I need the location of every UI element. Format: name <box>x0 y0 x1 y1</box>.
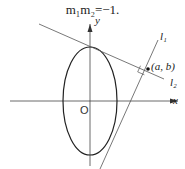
origin-label: O <box>80 104 89 116</box>
line-l2 <box>39 24 164 79</box>
line2-label: l₂ <box>170 76 177 88</box>
point-label: (a, b) <box>151 60 175 72</box>
x-axis-label: x <box>173 94 178 106</box>
diagram-canvas <box>0 0 185 169</box>
y-axis-label: y <box>95 14 100 26</box>
line1-label: l₁ <box>160 30 167 42</box>
line-l1 <box>100 40 158 169</box>
intersection-point <box>146 67 150 71</box>
y-axis-arrow-icon <box>88 24 93 32</box>
